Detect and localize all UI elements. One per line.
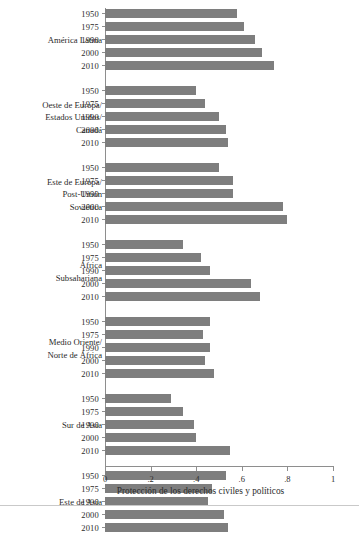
bar <box>105 343 210 352</box>
bar <box>105 279 251 288</box>
x-axis-tick-label: .8 <box>277 474 297 484</box>
bar <box>105 61 274 70</box>
bar-row <box>105 496 333 509</box>
bar-row <box>105 188 333 201</box>
bar <box>105 292 260 301</box>
bar-row <box>105 432 333 445</box>
bar-row <box>105 21 333 34</box>
bar-row <box>105 509 333 522</box>
bar-group <box>105 239 333 304</box>
region-label: Oeste de Europa/ Estados Unidos/ Canadá <box>4 99 102 137</box>
x-axis-tick <box>287 467 288 471</box>
bar-group <box>105 316 333 381</box>
bar <box>105 176 233 185</box>
region-label-container: Oeste de Europa/ Estados Unidos/ Canadá <box>0 85 102 150</box>
bar-row <box>105 34 333 47</box>
region-label-container: Medio Oriente/ Norte de África <box>0 316 102 381</box>
bar <box>105 523 228 532</box>
x-axis-tick <box>151 467 152 471</box>
plot-area <box>105 8 333 466</box>
x-axis-tick <box>333 467 334 471</box>
bar <box>105 330 203 339</box>
bar-row <box>105 137 333 150</box>
bar-row <box>105 355 333 368</box>
x-axis-tick <box>242 467 243 471</box>
bar-row <box>105 316 333 329</box>
x-axis-tick <box>196 467 197 471</box>
region-label: Medio Oriente/ Norte de África <box>4 336 102 361</box>
bar <box>105 35 255 44</box>
bar <box>105 407 183 416</box>
bar-row <box>105 522 333 535</box>
bar <box>105 433 196 442</box>
bar <box>105 446 230 455</box>
region-label-container: América Latina <box>0 8 102 73</box>
bar-row <box>105 265 333 278</box>
bar <box>105 369 214 378</box>
bar-row <box>105 85 333 98</box>
bar <box>105 420 194 429</box>
bar <box>105 317 210 326</box>
bar <box>105 189 233 198</box>
bar <box>105 48 262 57</box>
bar-row <box>105 98 333 111</box>
x-axis-tick-label: .6 <box>232 474 252 484</box>
bar <box>105 240 183 249</box>
region-label-container: Sur de Asia <box>0 393 102 458</box>
x-axis-tick-label: .2 <box>141 474 161 484</box>
bar-row <box>105 342 333 355</box>
region-label: Este de Europa/ Post-Unión Soviética <box>4 176 102 214</box>
bar-row <box>105 162 333 175</box>
x-axis-tick-label: .4 <box>186 474 206 484</box>
bar <box>105 266 210 275</box>
bar-row <box>105 278 333 291</box>
bar <box>105 86 196 95</box>
bar-group <box>105 393 333 458</box>
bar-row <box>105 239 333 252</box>
bar <box>105 394 171 403</box>
bar <box>105 253 201 262</box>
bar-row <box>105 124 333 137</box>
bar-row <box>105 8 333 21</box>
bar <box>105 112 219 121</box>
bar-group <box>105 85 333 150</box>
bar <box>105 510 224 519</box>
bar-row <box>105 406 333 419</box>
region-label-container: Este de Asia <box>0 470 102 535</box>
bar <box>105 9 237 18</box>
bar-row <box>105 214 333 227</box>
bar-row <box>105 291 333 304</box>
bar-group <box>105 8 333 73</box>
bar <box>105 22 244 31</box>
region-label: América Latina <box>4 34 102 47</box>
x-axis-tick-label: 1 <box>323 474 343 484</box>
bar-group <box>105 162 333 227</box>
bar <box>105 125 226 134</box>
bar-row <box>105 252 333 265</box>
bar-row <box>105 175 333 188</box>
bar <box>105 215 287 224</box>
bar-row <box>105 445 333 458</box>
region-label-container: Este de Europa/ Post-Unión Soviética <box>0 162 102 227</box>
bar-row <box>105 393 333 406</box>
region-label: Sur de Asia <box>4 419 102 432</box>
bar <box>105 163 219 172</box>
x-axis: 0.2.4.6.81 <box>105 467 333 487</box>
bar-row <box>105 47 333 60</box>
bar-row <box>105 419 333 432</box>
bar <box>105 202 283 211</box>
x-axis-tick <box>105 467 106 471</box>
bar-row <box>105 60 333 73</box>
bar <box>105 356 205 365</box>
bar-row <box>105 111 333 124</box>
bar <box>105 99 205 108</box>
bar-row <box>105 329 333 342</box>
x-axis-title-text: Protección de los derechos civiles y pol… <box>75 486 284 496</box>
region-label: Este de Asia <box>4 496 102 509</box>
bar <box>105 138 228 147</box>
bar-row <box>105 201 333 214</box>
region-label-container: África Subsahariana <box>0 239 102 304</box>
region-label: África Subsahariana <box>4 259 102 284</box>
bar-row <box>105 368 333 381</box>
